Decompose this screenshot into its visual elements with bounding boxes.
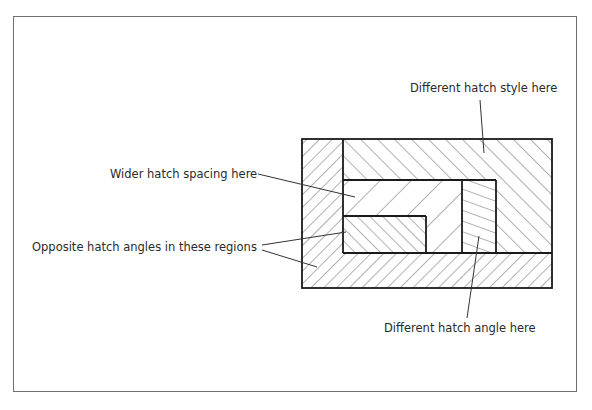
label-wider-spacing: Wider hatch spacing here: [110, 167, 257, 181]
label-different-angle: Different hatch angle here: [384, 321, 536, 335]
region-vertical-strip: [462, 180, 496, 253]
region-small-box: [343, 216, 426, 253]
hatch-diagram: Different hatch style here Wider hatch s…: [0, 0, 592, 410]
label-different-style: Different hatch style here: [410, 81, 557, 95]
label-opposite-angles: Opposite hatch angles in these regions: [32, 240, 257, 254]
